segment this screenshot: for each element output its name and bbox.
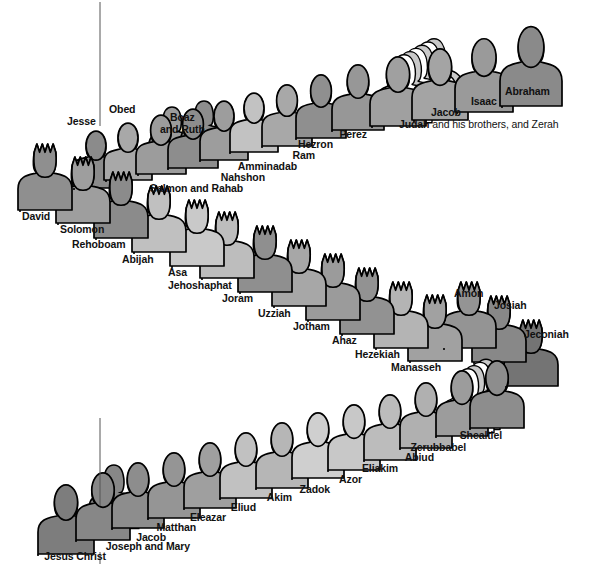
- head-icon: [486, 361, 508, 395]
- head-icon: [244, 93, 264, 123]
- person-label-perez: Perez: [339, 129, 367, 140]
- person-label-jacob: Jacob: [431, 107, 461, 118]
- head-icon: [518, 27, 544, 68]
- person-label-abraham: Abraham: [505, 86, 550, 97]
- head-icon: [428, 49, 451, 85]
- person-label-uzziah: Uzziah: [258, 308, 291, 319]
- person-label-manasseh: Manasseh: [391, 362, 441, 373]
- person-label-abijah: Abijah: [122, 254, 154, 265]
- person-label-jehoshaphat: Jehoshaphat: [168, 280, 232, 291]
- person-label-solomon: Solomon: [60, 224, 104, 235]
- person-label-jesse: Jesse: [67, 116, 96, 127]
- head-icon: [92, 473, 114, 507]
- person-label-joseph-and-mary: Joseph and Mary: [106, 541, 190, 552]
- head-icon: [54, 485, 77, 520]
- person-label-isaac: Isaac: [471, 96, 497, 107]
- person-label-abiud: Abiud: [405, 452, 434, 463]
- head-icon: [472, 39, 496, 77]
- genealogy-artwork: [0, 0, 589, 564]
- person-label-eliud: Eliud: [231, 502, 256, 513]
- person-label-asa: Asa: [168, 267, 187, 278]
- head-icon: [311, 75, 332, 107]
- person-label-ahaz: Ahaz: [332, 335, 357, 346]
- head-icon: [343, 405, 365, 438]
- head-icon: [277, 85, 298, 116]
- head-icon: [118, 123, 138, 152]
- head-icon: [163, 453, 185, 486]
- head-icon: [86, 131, 106, 160]
- genealogy-diagram: ... AbrahamIsaacJacobJudah and his broth…: [0, 0, 589, 564]
- person-label-jotham: Jotham: [293, 321, 330, 332]
- head-icon: [386, 57, 409, 92]
- head-icon: [307, 413, 329, 446]
- head-icon: [199, 443, 221, 476]
- person-label-judah: Judah and his brothers, and Zerah: [399, 119, 559, 130]
- person-label-amon: Amon: [454, 288, 483, 299]
- head-icon: [379, 395, 401, 428]
- head-icon: [451, 371, 473, 404]
- person-label-obed: Obed: [109, 104, 135, 115]
- person-label-shealtiel: Shealtiel: [460, 430, 502, 441]
- person-label-azor: Azor: [339, 474, 362, 485]
- person-label-jeconiah: Jeconiah: [524, 329, 569, 340]
- person-label-boaz-and-ruth: Boazand Ruth: [160, 112, 205, 135]
- person-label-josiah: Josiah: [494, 300, 527, 311]
- person-label-salmon-and-rahab: Salmon and Rahab: [150, 183, 243, 194]
- person-label-rehoboam: Rehoboam: [72, 239, 125, 250]
- person-label-hezekiah: Hezekiah: [355, 349, 400, 360]
- head-icon: [235, 433, 257, 466]
- person-label-david: David: [22, 211, 50, 222]
- person-label-eliakim: Eliakim: [362, 463, 398, 474]
- person-label-zadok: Zadok: [300, 484, 330, 495]
- head-icon: [415, 383, 437, 416]
- person-label-akim: Akim: [267, 492, 292, 503]
- head-icon: [271, 423, 293, 456]
- person-label-jesus-christ: Jesus Christ: [44, 551, 106, 562]
- head-icon: [127, 463, 149, 496]
- head-icon: [347, 65, 369, 98]
- person-label-joram: Joram: [222, 293, 253, 304]
